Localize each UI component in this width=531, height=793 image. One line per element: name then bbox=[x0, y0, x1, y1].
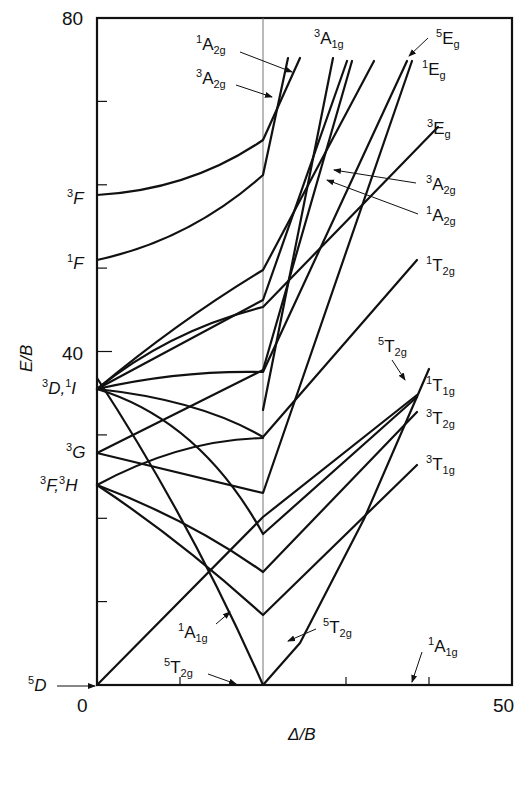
arrow-bottom-1A1g-right bbox=[412, 652, 422, 682]
label-1Eg: 1Eg bbox=[422, 58, 446, 81]
arrow-5Eg bbox=[409, 38, 428, 56]
term-3G: 3G bbox=[66, 441, 85, 462]
curve-1A2g-mid bbox=[97, 61, 347, 389]
arrow-bottom-1A1g-left bbox=[216, 612, 230, 624]
arrow-5T2g bbox=[392, 360, 405, 380]
curve-3A1g-mid bbox=[97, 61, 374, 389]
label-top-3A2g: 3A2g bbox=[196, 67, 226, 90]
free-ion-labels: 3F 1F 3D,1I 3G 3F,3H 5D bbox=[28, 187, 85, 695]
label-bottom-1A1g-left: 1A1g bbox=[178, 621, 208, 644]
label-bottom-5T2g-mid: 5T2g bbox=[323, 616, 352, 639]
curve-3T1g bbox=[97, 465, 417, 615]
x-axis-label: Δ/B bbox=[287, 725, 315, 744]
curve-3A1g bbox=[263, 58, 333, 410]
energy-curves bbox=[97, 58, 438, 685]
arrow-3A2g bbox=[334, 170, 416, 183]
x-ticks bbox=[180, 677, 429, 685]
term-3F-3H: 3F,3H bbox=[40, 474, 78, 495]
label-1T1g: 1T1g bbox=[426, 374, 455, 397]
y-axis-label: E/B bbox=[17, 345, 36, 372]
label-3A2g: 3A2g bbox=[426, 173, 456, 196]
label-1A2g: 1A2g bbox=[426, 204, 456, 227]
term-3F: 3F bbox=[67, 187, 85, 208]
arrow-bottom-5T2g-left bbox=[208, 674, 236, 684]
label-3Eg: 3Eg bbox=[427, 117, 451, 140]
term-3D-1I: 3D,1I bbox=[42, 377, 76, 398]
y-tick-40: 40 bbox=[62, 343, 83, 364]
label-top-3A1g: 3A1g bbox=[314, 27, 344, 50]
y-ticks bbox=[97, 101, 112, 601]
top-labels: 1A2g 3A2g 3A1g bbox=[196, 27, 344, 90]
label-bottom-5T2g-left: 5T2g bbox=[164, 656, 193, 679]
curve-5Eg bbox=[97, 61, 407, 389]
plot-frame bbox=[97, 18, 512, 685]
label-3T1g: 3T1g bbox=[426, 453, 455, 476]
label-5Eg: 5Eg bbox=[436, 27, 460, 50]
curve-1F-upper bbox=[97, 58, 288, 260]
label-5T2g: 5T2g bbox=[378, 335, 407, 358]
x-tick-50: 50 bbox=[493, 695, 514, 716]
tanabe-sugano-chart: 80 40 0 50 E/B Δ/B 3F bbox=[0, 0, 531, 793]
curve-3F3H-up bbox=[97, 438, 263, 485]
curve-1T2g bbox=[97, 260, 417, 437]
arrow-top-3A2g bbox=[236, 85, 272, 97]
term-5D: 5D bbox=[28, 674, 46, 695]
x-tick-0: 0 bbox=[77, 695, 88, 716]
arrow-1A2g bbox=[327, 180, 418, 214]
label-3T2g: 3T2g bbox=[426, 407, 455, 430]
label-top-1A2g: 1A2g bbox=[196, 33, 226, 56]
label-bottom-1A1g-right: 1A1g bbox=[428, 635, 458, 658]
label-1T2g: 1T2g bbox=[426, 254, 455, 277]
y-tick-80: 80 bbox=[62, 8, 83, 29]
arrow-top-1A2g bbox=[240, 52, 292, 72]
term-1F: 1F bbox=[67, 252, 85, 273]
